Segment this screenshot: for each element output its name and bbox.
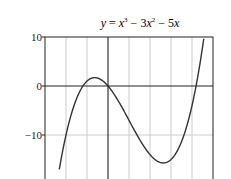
axes [42,37,213,179]
chart-title: y = x3 − 3x2 − 5x [100,16,180,30]
y-tick-label: −20 [25,178,43,179]
y-tick-label: 10 [31,31,43,43]
function-curve [59,39,203,170]
y-tick-label: −10 [25,129,43,141]
chart: y = x3 − 3x2 − 5x −3−2−1012345100−10−20 [0,0,231,179]
gridlines [45,37,213,179]
y-tick-label: 0 [37,80,43,92]
